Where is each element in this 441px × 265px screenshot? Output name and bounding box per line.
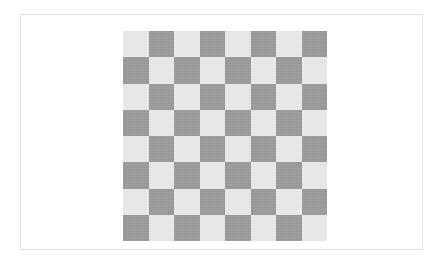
board-square (225, 110, 251, 136)
board-square (123, 110, 149, 136)
board-square (276, 136, 302, 162)
board-square (276, 189, 302, 215)
board-square (251, 84, 277, 110)
board-square (200, 84, 226, 110)
board-square (123, 57, 149, 83)
board-square (200, 215, 226, 241)
board-square (225, 215, 251, 241)
board-square (174, 57, 200, 83)
board-square (200, 136, 226, 162)
board-square (276, 31, 302, 57)
board-square (123, 31, 149, 57)
board-square (149, 84, 175, 110)
board-square (174, 189, 200, 215)
board-square (251, 162, 277, 188)
board-square (149, 31, 175, 57)
board-square (149, 189, 175, 215)
board-square (149, 215, 175, 241)
board-square (225, 84, 251, 110)
board-square (302, 110, 328, 136)
board-square (225, 162, 251, 188)
image-viewport (0, 0, 441, 265)
board-square (276, 57, 302, 83)
board-square (174, 136, 200, 162)
board-square (302, 31, 328, 57)
board-square (225, 31, 251, 57)
board-square (174, 31, 200, 57)
board-square (174, 162, 200, 188)
board-square (200, 31, 226, 57)
image-frame (20, 14, 423, 250)
board-square (123, 84, 149, 110)
board-square (251, 136, 277, 162)
board-square (251, 189, 277, 215)
board-square (251, 31, 277, 57)
board-square (200, 189, 226, 215)
board-square (200, 110, 226, 136)
board-square (149, 136, 175, 162)
board-square (302, 136, 328, 162)
board-square (174, 110, 200, 136)
board-square (276, 84, 302, 110)
board-square (174, 215, 200, 241)
board-square (251, 57, 277, 83)
board-square (251, 110, 277, 136)
board-square (123, 136, 149, 162)
board-square (149, 57, 175, 83)
board-square (123, 189, 149, 215)
board-square (302, 84, 328, 110)
board-square (302, 57, 328, 83)
board-square (302, 162, 328, 188)
board-square (200, 57, 226, 83)
board-square (276, 110, 302, 136)
board-square (123, 162, 149, 188)
board-square (276, 162, 302, 188)
board-square (276, 215, 302, 241)
board-square (123, 215, 149, 241)
board-square (302, 189, 328, 215)
checkerboard-grid (123, 31, 327, 241)
board-square (174, 84, 200, 110)
board-square (200, 162, 226, 188)
board-square (149, 162, 175, 188)
board-square (302, 215, 328, 241)
board-square (251, 215, 277, 241)
board-square (225, 57, 251, 83)
board-square (225, 136, 251, 162)
board-square (149, 110, 175, 136)
board-square (225, 189, 251, 215)
checkerboard-container (123, 31, 327, 241)
